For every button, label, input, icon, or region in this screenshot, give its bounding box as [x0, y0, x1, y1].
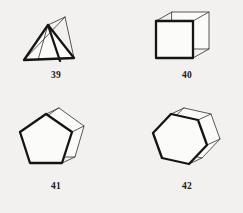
figure-39-tetrahedron: 39 [4, 4, 108, 100]
cube-drawing [135, 4, 239, 74]
cube-front-face [156, 21, 193, 58]
figure-40-cube: 40 [135, 4, 239, 100]
hexagonal-prism-drawing [135, 101, 239, 185]
tetrahedron-edge-apex-back [48, 17, 65, 25]
figure-42-hexagonal-prism: 42 [135, 101, 239, 209]
tetrahedron-drawing [4, 4, 108, 74]
pentagonal-prism-drawing [4, 101, 108, 185]
cube-edge-top-left-connect [156, 12, 172, 21]
figure-39-label: 39 [4, 70, 108, 80]
figure-41-label: 41 [4, 181, 108, 191]
figure-41-pentagonal-prism: 41 [4, 101, 108, 209]
figure-plate: 39 40 [0, 0, 243, 213]
cube-edge-bottom-right-connect [193, 49, 209, 58]
figure-42-label: 42 [135, 181, 239, 191]
figure-40-label: 40 [135, 70, 239, 80]
